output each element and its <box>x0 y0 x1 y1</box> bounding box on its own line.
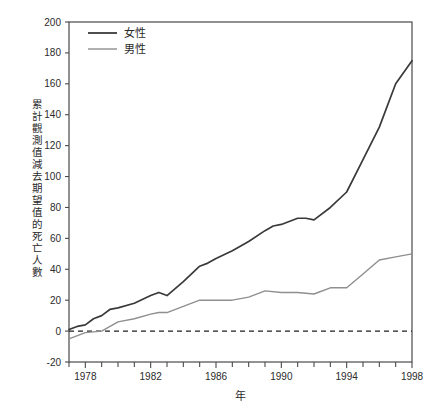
y-tick-label: 40 <box>50 264 62 275</box>
y-tick-label: 80 <box>50 202 62 213</box>
y-axis-title-char: 死 <box>32 230 43 242</box>
x-tick-label: 1986 <box>205 371 228 382</box>
legend-label: 女性 <box>124 26 146 39</box>
y-axis-title-char: 累 <box>32 98 42 110</box>
line-chart: -20020406080100120140160180200 197819821… <box>0 0 439 416</box>
legend-label: 男性 <box>124 42 146 55</box>
y-tick-label: 140 <box>44 109 61 120</box>
y-axis-title-char: 數 <box>32 266 43 278</box>
y-axis-title-char: 期 <box>32 182 42 194</box>
y-tick-label: 0 <box>55 326 61 337</box>
y-axis-title-char: 值 <box>32 206 43 218</box>
y-tick-label: 60 <box>50 233 62 244</box>
y-axis-title-char: 望 <box>32 194 42 206</box>
y-tick-label: 160 <box>44 78 61 89</box>
y-tick-label: 20 <box>50 295 62 306</box>
y-axis-ticks: -20020406080100120140160180200 <box>44 17 69 368</box>
x-tick-label: 1982 <box>140 371 163 382</box>
y-axis-title-char: 計 <box>32 110 43 122</box>
chart-container: -20020406080100120140160180200 197819821… <box>0 0 439 416</box>
y-tick-label: 180 <box>44 47 61 58</box>
x-tick-label: 1994 <box>336 371 359 382</box>
y-axis-title-char: 人 <box>32 254 43 266</box>
x-axis-title: 年 <box>235 389 246 402</box>
y-tick-label: 100 <box>44 171 61 182</box>
y-tick-label: 200 <box>44 17 61 28</box>
y-tick-label: 120 <box>44 140 61 151</box>
y-axis-title-char: 減 <box>32 158 43 170</box>
y-axis-title-char: 觀 <box>32 122 43 134</box>
x-tick-label: 1978 <box>74 371 97 382</box>
y-axis-title-char: 去 <box>32 170 42 182</box>
x-tick-label: 1998 <box>401 371 424 382</box>
y-axis-title-char: 亡 <box>32 242 42 254</box>
plot-frame <box>69 22 412 362</box>
y-axis-title-char: 值 <box>32 146 43 158</box>
x-axis-ticks: 197819821986199019941998 <box>69 362 424 382</box>
y-axis-title-char: 測 <box>32 134 42 146</box>
x-tick-label: 1990 <box>270 371 293 382</box>
y-axis-title: 累計觀測值減去期望值的死亡人數 <box>32 98 43 278</box>
y-tick-label: -20 <box>47 357 62 368</box>
y-axis-title-char: 的 <box>32 218 42 230</box>
